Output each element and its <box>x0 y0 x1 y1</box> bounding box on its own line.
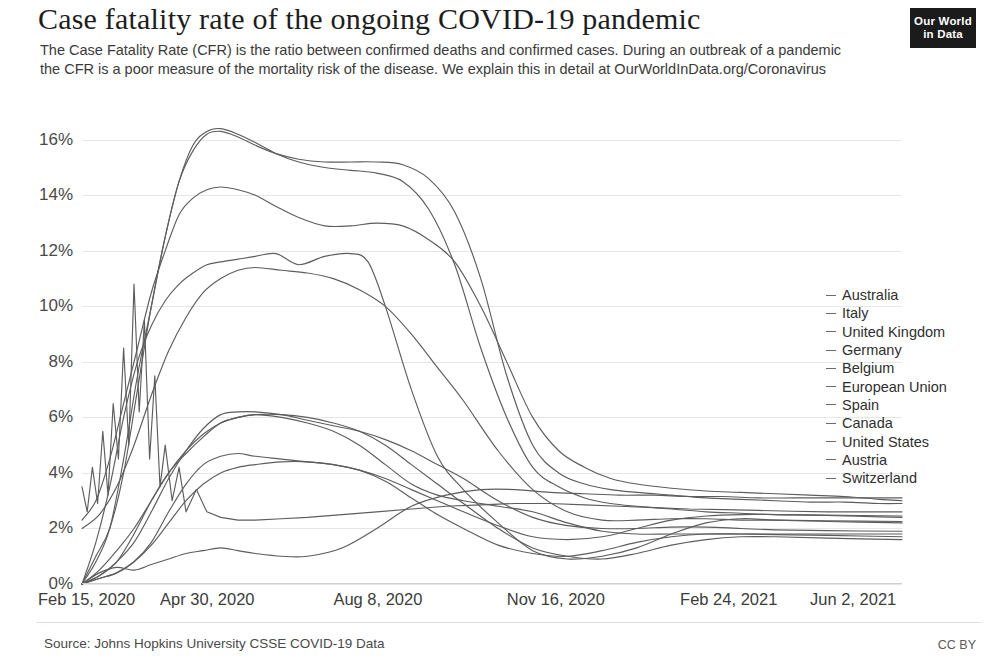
legend-label: Canada <box>836 415 893 431</box>
legend-label: European Union <box>836 379 947 395</box>
x-tick-label: Aug 8, 2020 <box>333 590 422 609</box>
legend-connector-line <box>826 368 836 369</box>
series-line <box>82 461 902 584</box>
logo-line-2: in Data <box>923 28 963 41</box>
legend-connector-line <box>826 331 836 332</box>
y-tick-label: 6% <box>48 407 73 427</box>
legend-item-italy[interactable]: Italy <box>826 304 996 322</box>
y-tick-label: 12% <box>39 241 73 261</box>
legend-label: United Kingdom <box>836 324 945 340</box>
series-line <box>82 131 902 584</box>
legend-item-european-union[interactable]: European Union <box>826 377 996 395</box>
legend-item-austria[interactable]: Austria <box>826 451 996 469</box>
legend-connector-line <box>826 478 836 479</box>
legend-item-united-kingdom[interactable]: United Kingdom <box>826 323 996 341</box>
legend-label: Austria <box>836 452 887 468</box>
legend-label: Germany <box>836 342 902 358</box>
legend-connector-line <box>826 423 836 424</box>
gridline-y-0 <box>82 584 902 585</box>
legend-connector-line <box>826 295 836 296</box>
series-line <box>82 454 902 584</box>
series-line <box>82 187 902 520</box>
y-tick-label: 8% <box>48 352 73 372</box>
legend-connector-line <box>826 313 836 314</box>
x-tick-label: Jun 2, 2021 <box>810 590 896 609</box>
legend-item-united-states[interactable]: United States <box>826 432 996 450</box>
x-axis-baseline <box>82 583 902 584</box>
source-note: Source: Johns Hopkins University CSSE CO… <box>44 636 385 651</box>
x-tick-label: Apr 30, 2020 <box>160 590 255 609</box>
chart-subtitle: The Case Fatality Rate (CFR) is the rati… <box>40 41 860 79</box>
y-tick-label: 2% <box>48 518 73 538</box>
series-line <box>82 414 902 584</box>
legend-item-australia[interactable]: Australia <box>826 286 996 304</box>
legend-label: Spain <box>836 397 879 413</box>
legend-item-belgium[interactable]: Belgium <box>826 359 996 377</box>
legend-item-germany[interactable]: Germany <box>826 341 996 359</box>
y-tick-label: 4% <box>48 463 73 483</box>
legend-item-spain[interactable]: Spain <box>826 396 996 414</box>
legend-connector-line <box>826 459 836 460</box>
legend-item-switzerland[interactable]: Switzerland <box>826 469 996 487</box>
x-tick-label: Feb 24, 2021 <box>680 590 777 609</box>
plot-area: 0%2%4%6%8%10%12%14%16% Feb 15, 2020Apr 3… <box>82 112 902 584</box>
series-line <box>82 129 902 584</box>
chart-root: Case fatality rate of the ongoing COVID-… <box>0 0 1000 669</box>
legend-connector-line <box>826 404 836 405</box>
legend-label: Australia <box>836 287 898 303</box>
footer-divider <box>36 622 982 623</box>
page-title: Case fatality rate of the ongoing COVID-… <box>38 2 701 36</box>
legend-label: United States <box>836 434 929 450</box>
legend-label: Italy <box>836 305 869 321</box>
legend-label: Belgium <box>836 360 894 376</box>
chart-legend: AustraliaItalyUnited KingdomGermanyBelgi… <box>826 286 996 487</box>
owid-logo[interactable]: Our World in Data <box>910 8 976 48</box>
y-tick-label: 16% <box>39 130 73 150</box>
legend-connector-line <box>826 441 836 442</box>
series-line <box>82 415 902 584</box>
license-label[interactable]: CC BY <box>938 638 976 652</box>
legend-connector-line <box>826 350 836 351</box>
legend-connector-line <box>826 386 836 387</box>
series-lines <box>82 112 902 584</box>
y-tick-label: 10% <box>39 296 73 316</box>
x-tick-label: Nov 16, 2020 <box>507 590 605 609</box>
legend-item-canada[interactable]: Canada <box>826 414 996 432</box>
x-tick-label: Feb 15, 2020 <box>38 590 135 609</box>
legend-label: Switzerland <box>836 470 917 486</box>
y-tick-label: 14% <box>39 185 73 205</box>
logo-line-1: Our World <box>914 15 972 28</box>
